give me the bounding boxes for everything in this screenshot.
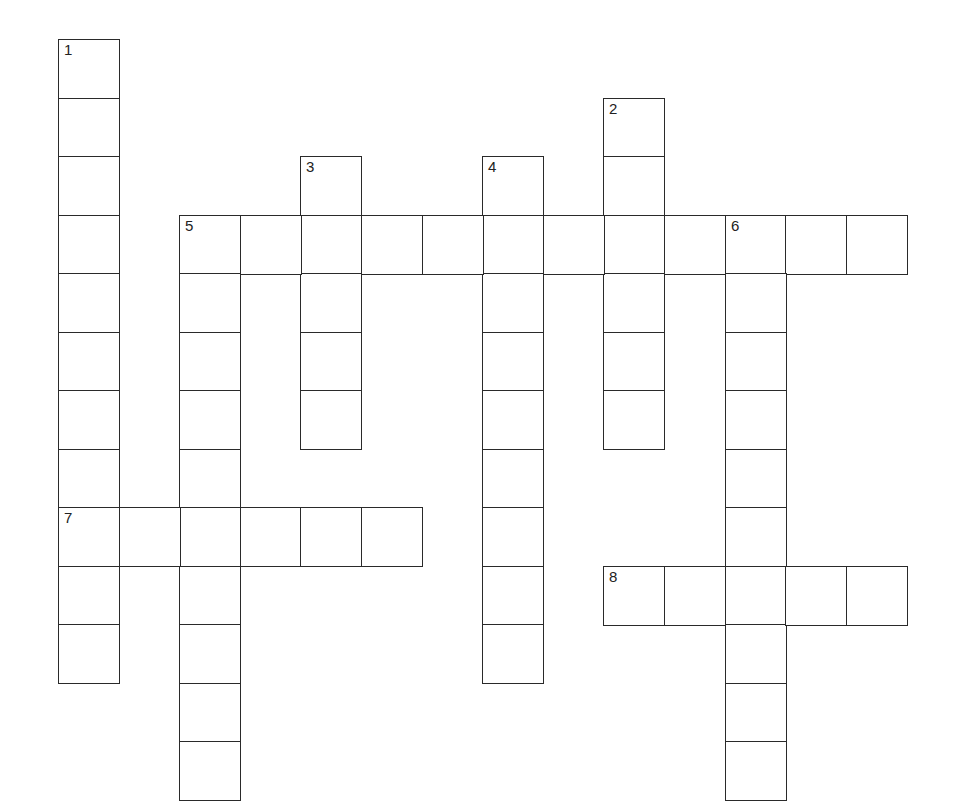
crossword-cell[interactable] [58, 624, 120, 684]
crossword-cell[interactable]: 2 [603, 98, 665, 158]
crossword-cell[interactable] [603, 215, 665, 275]
crossword-cell[interactable] [179, 566, 241, 626]
crossword-cell[interactable] [482, 507, 544, 567]
crossword-cell[interactable] [482, 332, 544, 392]
clue-number: 6 [731, 218, 739, 233]
crossword-cell[interactable] [240, 507, 302, 567]
crossword-cell[interactable]: 5 [179, 215, 241, 275]
crossword-cell[interactable] [361, 507, 423, 567]
crossword-cell[interactable]: 8 [603, 566, 665, 626]
crossword-cell[interactable] [58, 156, 120, 216]
crossword-cell[interactable] [58, 98, 120, 158]
crossword-cell[interactable]: 1 [58, 39, 120, 99]
crossword-cell[interactable]: 3 [300, 156, 362, 216]
crossword-cell[interactable] [725, 507, 787, 567]
crossword-cell[interactable] [300, 215, 362, 275]
crossword-cell[interactable] [725, 273, 787, 333]
crossword-cell[interactable] [482, 449, 544, 509]
crossword-cell[interactable] [785, 215, 847, 275]
crossword-cell[interactable] [422, 215, 484, 275]
clue-number: 1 [64, 42, 72, 57]
clue-number: 7 [64, 510, 72, 525]
crossword-cell[interactable] [58, 449, 120, 509]
crossword-cell[interactable] [543, 215, 605, 275]
crossword-cell[interactable] [58, 332, 120, 392]
crossword-cell[interactable] [846, 215, 908, 275]
crossword-cell[interactable]: 6 [725, 215, 787, 275]
crossword-cell[interactable] [725, 449, 787, 509]
crossword-cell[interactable] [482, 215, 544, 275]
crossword-cell[interactable]: 7 [58, 507, 120, 567]
crossword-cell[interactable] [664, 215, 726, 275]
crossword-cell[interactable] [300, 507, 362, 567]
crossword-cell[interactable] [300, 390, 362, 450]
clue-number: 3 [306, 159, 314, 174]
crossword-cell[interactable] [725, 390, 787, 450]
crossword-cell[interactable] [603, 332, 665, 392]
crossword-cell[interactable] [482, 566, 544, 626]
crossword-cell[interactable] [300, 332, 362, 392]
crossword-cell[interactable] [58, 215, 120, 275]
crossword-cell[interactable] [58, 390, 120, 450]
clue-number: 5 [185, 218, 193, 233]
crossword-cell[interactable] [179, 332, 241, 392]
crossword-cell[interactable] [725, 332, 787, 392]
crossword-cell[interactable] [119, 507, 181, 567]
crossword-cell[interactable] [664, 566, 726, 626]
crossword-cell[interactable]: 4 [482, 156, 544, 216]
crossword-cell[interactable] [725, 683, 787, 743]
crossword-cell[interactable] [179, 449, 241, 509]
crossword-cell[interactable] [785, 566, 847, 626]
clue-number: 2 [609, 101, 617, 116]
crossword-cell[interactable] [300, 273, 362, 333]
crossword-cell[interactable] [179, 390, 241, 450]
crossword-cell[interactable] [179, 741, 241, 801]
crossword-cell[interactable] [58, 566, 120, 626]
crossword-cell[interactable] [846, 566, 908, 626]
crossword-cell[interactable] [603, 390, 665, 450]
crossword-cell[interactable] [482, 390, 544, 450]
crossword-cell[interactable] [179, 683, 241, 743]
clue-number: 4 [488, 159, 496, 174]
crossword-cell[interactable] [725, 624, 787, 684]
crossword-cell[interactable] [725, 566, 787, 626]
clue-number: 8 [609, 569, 617, 584]
crossword-cell[interactable] [179, 507, 241, 567]
crossword-cell[interactable] [179, 273, 241, 333]
crossword-cell[interactable] [482, 624, 544, 684]
crossword-cell[interactable] [240, 215, 302, 275]
crossword-cell[interactable] [58, 273, 120, 333]
crossword-cell[interactable] [603, 156, 665, 216]
crossword-cell[interactable] [179, 624, 241, 684]
crossword-cell[interactable] [725, 741, 787, 801]
crossword-cell[interactable] [603, 273, 665, 333]
crossword-cell[interactable] [361, 215, 423, 275]
crossword-cell[interactable] [482, 273, 544, 333]
